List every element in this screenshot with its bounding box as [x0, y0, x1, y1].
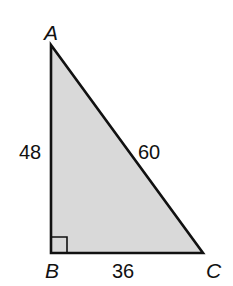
vertex-label-a: A: [42, 21, 58, 44]
triangle-figure: A B C 48 60 36: [0, 0, 233, 286]
side-label-ac: 60: [138, 141, 160, 163]
triangle-diagram: A B C 48 60 36: [0, 0, 233, 286]
triangle-abc: [51, 45, 203, 253]
side-label-bc: 36: [112, 260, 134, 282]
vertex-label-b: B: [45, 259, 59, 282]
side-label-ab: 48: [19, 141, 41, 163]
vertex-label-c: C: [206, 259, 222, 282]
